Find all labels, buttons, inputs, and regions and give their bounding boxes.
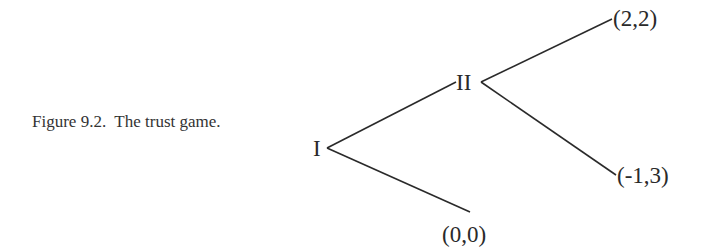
- edge-II-to-payoff-neg1-3: [481, 82, 616, 175]
- payoff-0-0: (0,0): [442, 223, 486, 246]
- payoff-neg1-3: (-1,3): [617, 164, 669, 187]
- edge-II-to-payoff-2-2: [481, 19, 612, 82]
- game-tree-edges: [0, 0, 709, 252]
- edge-I-to-II: [327, 82, 456, 148]
- payoff-2-2: (2,2): [613, 7, 657, 30]
- node-player-II: II: [456, 71, 471, 94]
- node-player-I: I: [313, 137, 321, 160]
- edge-I-to-payoff-0-0: [327, 148, 470, 212]
